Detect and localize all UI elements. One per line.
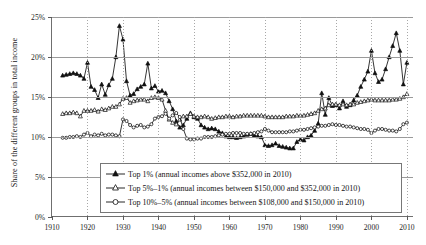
legend-label-top10-5: Top 10%–5% (annual incomes between $108,… (128, 198, 364, 207)
data-point-marker (143, 126, 146, 129)
data-point-marker (103, 93, 107, 97)
x-axis-tick (123, 216, 124, 220)
x-axis-tick (52, 216, 53, 220)
data-point-marker (224, 132, 227, 135)
gridline-vertical (407, 17, 408, 216)
data-point-marker (302, 128, 305, 131)
x-axis-tick-label: 1960 (222, 223, 237, 232)
data-point-marker (221, 133, 224, 136)
data-point-marker (239, 131, 242, 134)
gridline-horizontal (52, 17, 413, 18)
series-1 (61, 24, 409, 150)
data-point-marker (398, 127, 401, 130)
data-point-marker (136, 124, 139, 127)
data-point-marker (349, 125, 352, 128)
data-point-marker (160, 89, 164, 93)
data-point-marker (182, 127, 185, 130)
data-point-marker (402, 123, 405, 126)
data-point-marker (391, 129, 394, 132)
x-axis-tick-label: 1930 (115, 223, 130, 232)
legend-item-top10-5: Top 10%–5% (annual incomes between $108,… (106, 195, 396, 209)
data-point-marker (107, 133, 110, 136)
data-point-marker (388, 129, 391, 132)
data-point-marker (149, 86, 153, 90)
data-point-marker (242, 132, 245, 135)
data-point-marker (217, 129, 221, 133)
data-point-marker (384, 128, 387, 131)
data-point-marker (295, 129, 298, 132)
data-point-marker (401, 82, 405, 86)
x-axis-tick-label: 1970 (257, 223, 272, 232)
data-point-marker (189, 138, 192, 141)
data-point-marker (320, 91, 324, 95)
x-axis-tick-label: 1920 (80, 223, 95, 232)
data-point-marker (256, 131, 259, 134)
data-point-marker (377, 80, 381, 84)
x-axis-tick-label: 1950 (186, 223, 201, 232)
data-point-marker (100, 132, 103, 135)
data-point-marker (231, 131, 234, 134)
data-point-marker (203, 125, 207, 129)
income-share-chart: Share of the different groups in total i… (0, 0, 426, 245)
data-point-marker (175, 111, 178, 114)
data-point-marker (356, 127, 359, 130)
x-axis-tick (87, 216, 88, 220)
data-point-marker (366, 128, 369, 131)
y-axis-tick (48, 177, 52, 178)
data-point-marker (391, 44, 395, 48)
data-point-marker (142, 82, 146, 86)
y-axis-tick-label: 5% (35, 173, 45, 182)
legend-label-top1: Top 1% (annual incomes above $352,000 in… (128, 170, 292, 179)
gridline-horizontal (52, 137, 413, 138)
data-point-marker (338, 123, 341, 126)
data-point-marker (310, 127, 313, 130)
data-point-marker (125, 119, 128, 122)
data-point-marker (285, 131, 288, 134)
data-point-marker (167, 99, 171, 103)
legend-label-top5-1: Top 5%–1% (annual incomes between $150,0… (128, 184, 360, 193)
data-point-marker (100, 107, 104, 111)
data-point-marker (327, 123, 330, 126)
data-point-marker (366, 69, 370, 73)
data-point-marker (320, 124, 323, 127)
data-point-marker (281, 131, 284, 134)
data-point-marker (146, 61, 150, 65)
y-axis-tick-label: 25% (31, 13, 45, 22)
data-point-marker (111, 133, 114, 136)
data-point-marker (345, 125, 348, 128)
data-point-marker (395, 130, 398, 133)
gridline-horizontal (52, 57, 413, 58)
data-point-marker (164, 109, 168, 113)
data-point-marker (270, 131, 273, 134)
data-point-marker (246, 132, 249, 135)
data-point-marker (153, 84, 157, 88)
y-axis-title: Share of the different groups in total i… (10, 13, 19, 213)
data-point-marker (171, 114, 174, 117)
data-point-marker (71, 110, 75, 114)
data-point-marker (153, 117, 156, 120)
chart-legend: Top 1% (annual incomes above $352,000 in… (100, 163, 402, 213)
data-point-marker (150, 123, 153, 126)
x-axis-tick-label: 1940 (151, 223, 166, 232)
y-axis-tick-label: 15% (31, 93, 45, 102)
gridline-horizontal (52, 97, 413, 98)
data-point-marker (203, 114, 207, 118)
gridline-vertical (87, 17, 88, 216)
data-point-marker (146, 125, 149, 128)
data-point-marker (394, 31, 398, 35)
y-axis-tick (48, 57, 52, 58)
data-point-marker (316, 121, 320, 125)
data-point-marker (363, 127, 366, 130)
data-point-marker (341, 124, 344, 127)
x-axis-tick-label: 1990 (328, 223, 343, 232)
data-point-marker (164, 91, 168, 95)
data-point-marker (160, 115, 163, 118)
data-point-marker (352, 126, 355, 129)
x-axis-tick-label: 2000 (364, 223, 379, 232)
open-triangle-marker-icon (106, 183, 125, 193)
data-point-marker (117, 24, 121, 28)
data-point-marker (82, 133, 85, 136)
legend-item-top5-1: Top 5%–1% (annual incomes between $150,0… (106, 181, 396, 195)
data-point-marker (359, 127, 362, 130)
legend-item-top1: Top 1% (annual incomes above $352,000 in… (106, 167, 396, 181)
